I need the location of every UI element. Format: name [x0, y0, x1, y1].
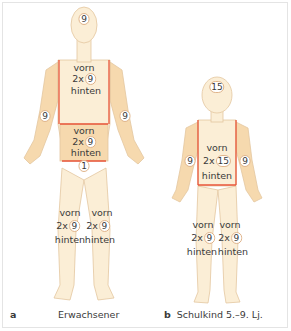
adult-arm-right-value: 9: [120, 110, 131, 122]
adult-leg-left-value-row: 2x 9: [56, 220, 80, 232]
adult-head-value: 9: [79, 13, 90, 25]
adult-leg-right-front-label: vorn: [91, 208, 112, 218]
adult-chest-front-label: vorn: [73, 63, 94, 73]
adult-chest-back-label: hinten: [71, 86, 101, 96]
child-leg-left-mult: 2x: [191, 233, 203, 243]
adult-abdomen-back-label: hinten: [71, 148, 101, 158]
adult-caption-text: Erwachsener: [58, 310, 119, 320]
child-trunk-mult: 2x: [203, 156, 215, 166]
adult-arm-left-value: 9: [40, 110, 51, 122]
adult-leg-right-value: 9: [99, 220, 110, 232]
adult-abdomen-mult: 2x: [72, 137, 84, 147]
adult-caption: a: [10, 310, 22, 320]
child-trunk-value-row: 2x 15: [203, 155, 231, 167]
child-arm-right-value: 9: [240, 155, 251, 167]
adult-chest-mult: 2x: [72, 74, 84, 84]
child-leg-left-back-label: hinten: [187, 247, 217, 257]
adult-genital-value: 1: [79, 160, 90, 172]
child-leg-right-back-label: hinten: [218, 247, 248, 257]
child-trunk-front-label: vorn: [206, 143, 227, 153]
child-leg-right-value: 9: [231, 232, 242, 244]
adult-chest-value: 9: [85, 73, 96, 85]
adult-abdomen-front-label: vorn: [73, 126, 94, 136]
adult-panel-letter: a: [10, 309, 16, 320]
adult-leg-left-back-label: hinten: [55, 235, 85, 245]
child-panel-letter: b: [164, 309, 171, 320]
adult-leg-left-mult: 2x: [56, 221, 68, 231]
adult-leg-right-back-label: hinten: [85, 235, 115, 245]
child-trunk-value: 15: [216, 155, 231, 167]
child-head-value: 15: [209, 81, 224, 93]
child-leg-left-value: 9: [204, 232, 215, 244]
child-leg-right-front-label: vorn: [219, 220, 240, 230]
child-leg-left-front-label: vorn: [192, 220, 213, 230]
child-leg-right-value-row: 2x 9: [218, 232, 242, 244]
child-caption: bSchulkind 5.–9. Lj.: [164, 310, 263, 320]
child-leg-left-value-row: 2x 9: [191, 232, 215, 244]
adult-leg-right-mult: 2x: [86, 221, 98, 231]
child-leg-right-mult: 2x: [218, 233, 230, 243]
adult-leg-right-value-row: 2x 9: [86, 220, 110, 232]
child-trunk-back-label: hinten: [202, 171, 232, 181]
child-caption-text: Schulkind 5.–9. Lj.: [177, 309, 263, 320]
adult-chest-value-row: 2x 9: [72, 73, 96, 85]
child-figure: [172, 77, 262, 303]
adult-leg-left-front-label: vorn: [59, 208, 80, 218]
child-arm-left-value: 9: [185, 155, 196, 167]
adult-leg-left-value: 9: [69, 220, 80, 232]
